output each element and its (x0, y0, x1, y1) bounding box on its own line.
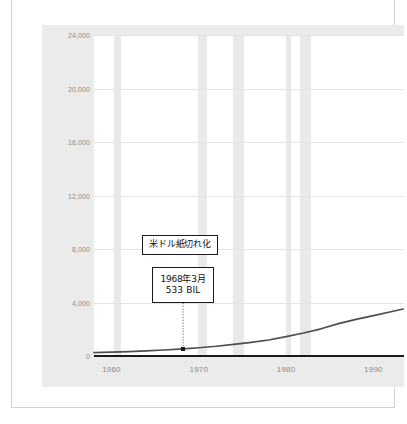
document-frame: 24,00020,00016,00012,0008,0004,0000 1960… (11, 0, 395, 408)
y-axis-tick-label: 16,000 (44, 139, 90, 146)
annotation-dollar-paper-note: 米ドル紙切れ化 (142, 235, 218, 255)
annotation-dollar-paper-note-label: 米ドル紙切れ化 (149, 239, 211, 250)
x-axis-tick-label: 1960 (102, 365, 121, 374)
plot-area (94, 35, 404, 356)
annotation-value-label: 533 BIL (166, 285, 201, 296)
annotation-data-point-callout: 1968年3月 533 BIL (152, 267, 214, 303)
y-axis-tick-label: 24,000 (44, 32, 90, 39)
annotation-date-label: 1968年3月 (160, 274, 205, 285)
gridline (94, 89, 404, 90)
gridline (94, 249, 404, 250)
y-axis-tick-label: 12,000 (44, 192, 90, 199)
chart-figure: 24,00020,00016,00012,0008,0004,0000 1960… (42, 25, 404, 387)
gridline (94, 142, 404, 143)
x-axis-tick-label: 1990 (364, 365, 383, 374)
y-axis-tick-label: 0 (44, 353, 90, 360)
y-axis-tick-label: 4,000 (44, 299, 90, 306)
x-axis-zero-rule (94, 355, 404, 357)
y-axis-tick-label: 8,000 (44, 246, 90, 253)
gridline (94, 303, 404, 304)
y-axis-tick-label: 20,000 (44, 85, 90, 92)
gridline (94, 35, 404, 36)
x-axis-tick-label: 1980 (277, 365, 296, 374)
gridline (94, 196, 404, 197)
x-axis-tick-label: 1970 (189, 365, 208, 374)
annotation-point-marker (181, 347, 185, 351)
